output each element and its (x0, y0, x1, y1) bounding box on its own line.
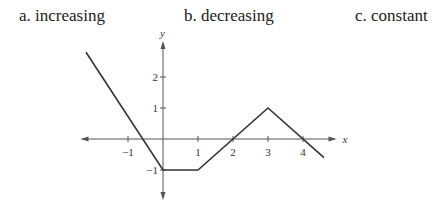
function-graph: xy−11234−112 (0, 0, 442, 213)
x-axis-label: x (342, 133, 348, 145)
x-axis-left-arrow-icon (81, 137, 89, 142)
y-axis-down-arrow-icon (161, 192, 166, 200)
x-tick-label: 1 (195, 146, 201, 158)
x-tick-label: 4 (300, 146, 306, 158)
x-tick-label: 2 (230, 146, 236, 158)
x-tick-label: −1 (122, 146, 134, 158)
y-tick-label: 2 (153, 71, 159, 83)
x-axis-right-arrow-icon (329, 137, 337, 142)
y-tick-label: 1 (153, 102, 159, 114)
y-tick-label: −1 (146, 164, 158, 176)
y-axis-up-arrow-icon (161, 41, 166, 49)
y-axis-label: y (159, 27, 165, 39)
x-tick-label: 3 (265, 146, 271, 158)
